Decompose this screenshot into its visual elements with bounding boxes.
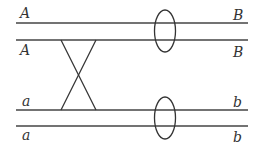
label-B-top: B: [232, 7, 243, 23]
label-A-second: A: [18, 42, 30, 58]
label-a-third: a: [22, 93, 30, 109]
label-a-fourth: a: [22, 127, 30, 143]
centromere-ellipse-top: [155, 10, 176, 52]
label-B-second: B: [232, 44, 243, 60]
label-A-top: A: [18, 5, 30, 21]
crossover-diagram: A B A B a b a b: [0, 0, 263, 154]
label-b-fourth: b: [233, 129, 242, 145]
label-b-third: b: [233, 94, 242, 110]
centromere-ellipse-bottom: [155, 97, 176, 139]
